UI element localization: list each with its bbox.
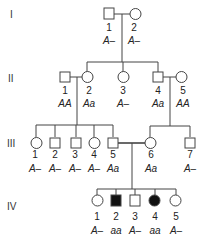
individual-number: 1 [32,149,38,160]
male-symbol-III-3 [71,138,81,148]
generation-label-I: I [10,9,13,20]
female-symbol-II-3 [118,72,129,83]
individual-number: 4 [155,85,161,96]
affected-female-symbol-IV-4 [149,195,160,206]
affected-male-symbol-IV-2 [111,195,121,206]
female-symbol-IV-1 [92,195,103,206]
female-symbol-II-2 [82,72,93,83]
individual-number: 6 [148,149,154,160]
genotype-label: aa [149,225,161,236]
individual-number: 3 [120,85,126,96]
male-symbol-III-7 [185,138,195,148]
individual-number: 7 [187,149,193,160]
individual-number: 2 [86,85,92,96]
genotype-label: A– [116,98,130,109]
genotype-label: A– [128,225,142,236]
generation-label-IV: IV [7,201,17,212]
female-symbol-III-1 [31,138,42,149]
genotype-label: Aa [144,163,158,174]
genotype-label: A– [90,225,104,236]
individual-number: 5 [173,211,179,222]
male-symbol-III-5 [108,138,118,148]
genotype-label: A– [48,163,62,174]
individual-number: 2 [131,22,137,33]
generation-label-II: II [8,73,14,84]
male-symbol-I-1 [104,8,114,19]
individual-number: 3 [72,149,78,160]
individual-number: 2 [113,211,119,222]
female-symbol-II-5 [176,72,187,83]
genotype-label: A– [183,163,197,174]
female-symbol-III-4 [89,138,100,149]
individual-number: 1 [106,22,112,33]
genotype-label: aa [110,225,122,236]
individual-number: 1 [62,85,68,96]
individual-number: 5 [180,85,186,96]
genotype-label: AA [175,98,190,109]
male-symbol-II-1 [60,72,70,82]
genotype-label: Aa [82,98,96,109]
individual-number: 2 [52,149,58,160]
genotype-label: A– [87,163,101,174]
generation-label-III: III [7,138,15,149]
genotype-label: AA [57,98,72,109]
individual-number: 3 [132,211,138,222]
genotype-label: A– [28,163,42,174]
individual-number: 5 [110,149,116,160]
genotype-label: A– [169,225,183,236]
individual-number: 4 [152,211,158,222]
male-symbol-II-4 [153,72,163,82]
female-symbol-III-6 [145,138,156,149]
male-symbol-IV-3 [130,195,140,206]
genotype-label: A– [68,163,82,174]
male-symbol-III-2 [50,138,60,148]
pedigree-chart: I II III IV [0,0,207,250]
genotype-label: Aa [151,98,165,109]
female-symbol-IV-5 [170,195,181,206]
individual-number: 4 [91,149,97,160]
individual-number: 1 [94,211,100,222]
female-symbol-I-2 [130,9,141,20]
genotype-label: A– [127,35,141,46]
genotype-label: Aa [106,163,120,174]
genotype-label: A– [102,35,116,46]
